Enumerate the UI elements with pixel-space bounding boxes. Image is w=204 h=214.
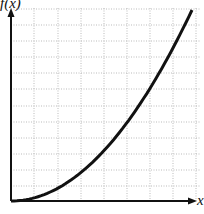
plot-area xyxy=(0,0,204,214)
x-axis-label: x xyxy=(197,193,204,208)
grid-lines xyxy=(11,8,200,201)
y-axis-label: f(x) xyxy=(0,0,21,11)
